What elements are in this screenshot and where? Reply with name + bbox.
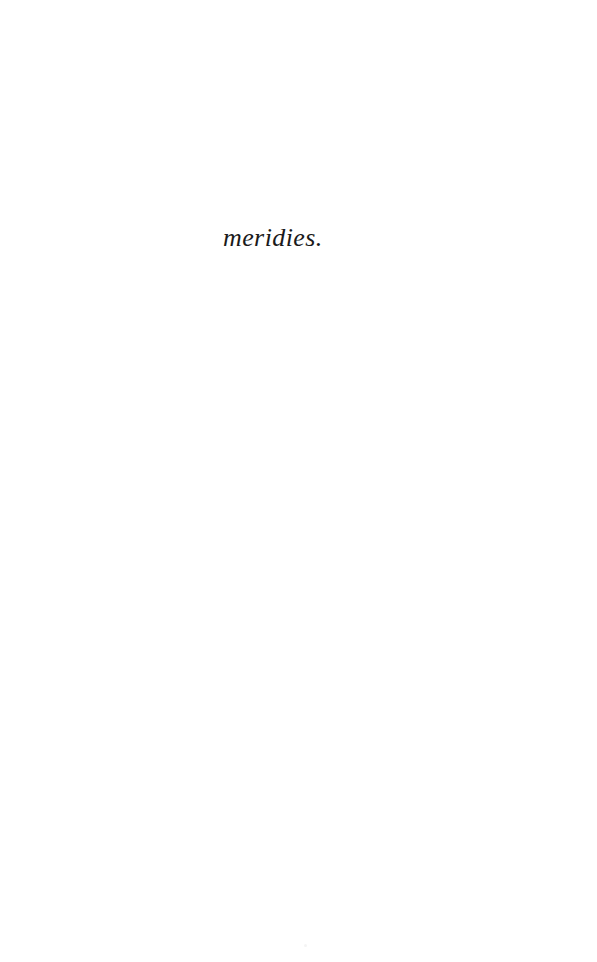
book-page: meridies.: [0, 0, 597, 962]
section-title: meridies.: [223, 224, 323, 252]
scan-speck: [304, 944, 307, 947]
